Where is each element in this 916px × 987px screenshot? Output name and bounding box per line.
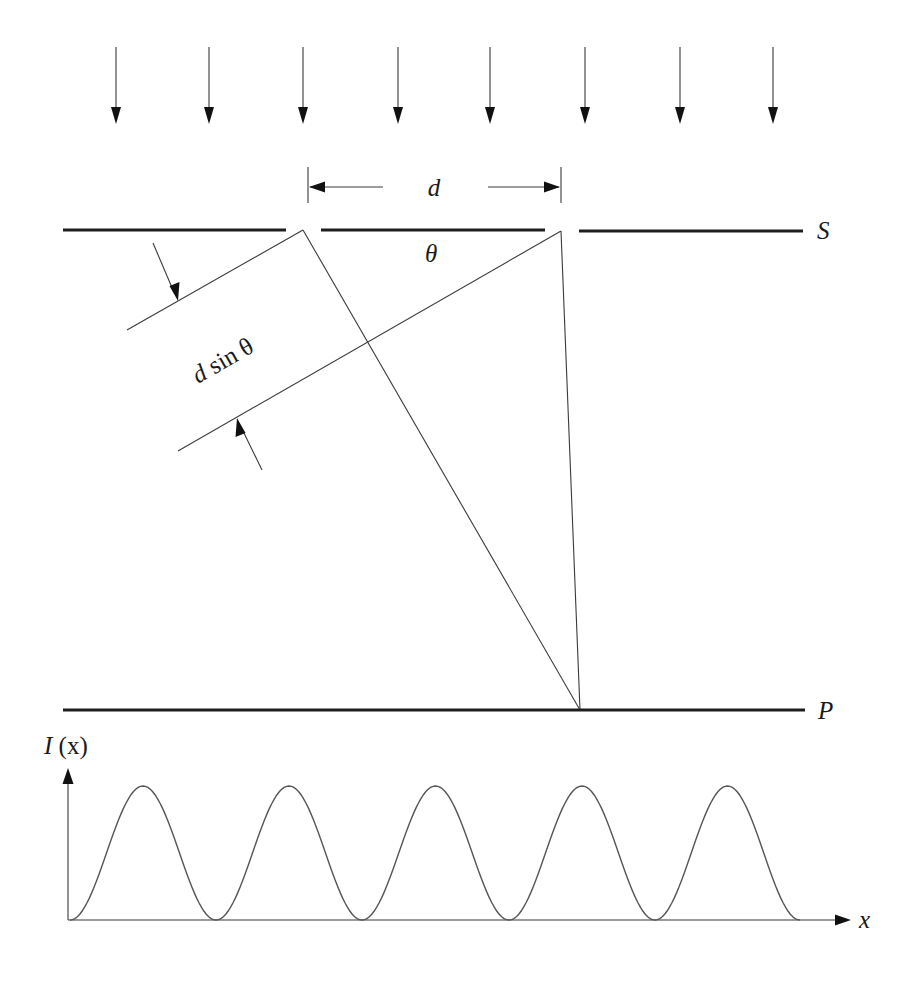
label-d: d [428,174,441,201]
path-diff-arrow-lower-line [242,429,262,470]
ray-right-slit [561,231,580,710]
screen-p: P [63,697,833,724]
incident-arrow-icon [485,47,495,124]
arrowhead-left-icon [309,182,325,193]
label-p: P [817,697,833,724]
arrowhead-right-icon [544,182,560,193]
incident-arrow-icon [675,47,685,124]
incident-arrow-icon [204,47,214,124]
x-axis-arrowhead-icon [835,915,851,926]
incident-arrow-icon [111,47,121,124]
incident-arrow-icon [580,47,590,124]
label-d-sin-theta-rest: sin θ [198,332,258,382]
label-d-sin-theta: d sin θ [187,332,258,388]
intensity-curve [70,786,800,920]
label-s: S [817,217,830,244]
incident-wave-arrows [111,47,778,124]
incident-arrow-icon [768,47,778,124]
path-diff-arrow-upper-line [153,243,173,290]
label-intensity-axis: I (x) [43,732,88,760]
incident-arrow-icon [298,47,308,124]
ray-geometry: d sin θ [127,230,580,710]
double-slit-diagram: d S θ d sin θ P I (x) [0,0,916,987]
slit-separation-dimension: d [308,167,561,203]
ray-left-slit [303,230,580,710]
barrier-s: S [63,217,830,244]
intensity-plot: I (x) x [43,732,870,933]
label-paren-x: (x) [52,732,87,760]
label-theta: θ [425,240,437,267]
y-axis-arrowhead-icon [63,768,74,784]
incident-arrow-icon [393,47,403,124]
label-x: x [858,906,870,933]
